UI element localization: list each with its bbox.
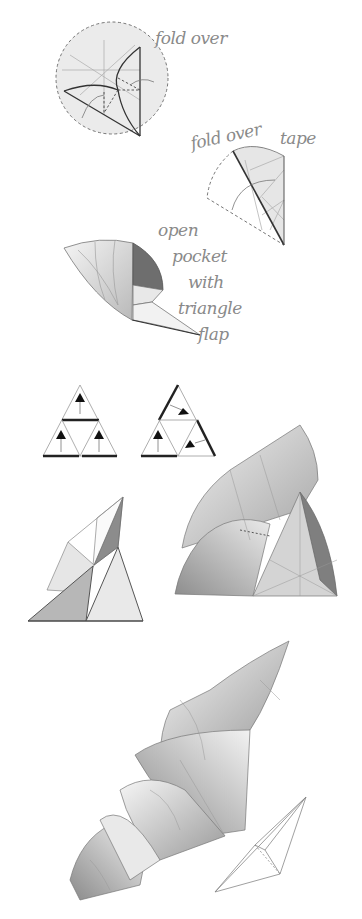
step-6-final-assembly	[0, 0, 362, 919]
